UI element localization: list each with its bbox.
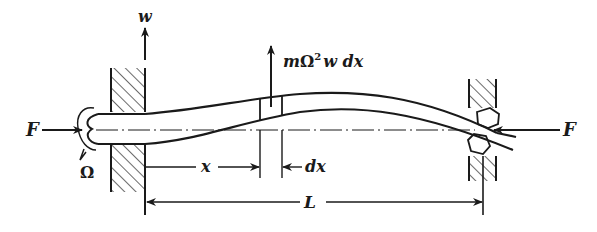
element-width-label: dx — [305, 157, 326, 176]
position-label: x — [200, 157, 211, 176]
rotation-label: Ω — [80, 163, 94, 182]
length-label: L — [303, 192, 316, 212]
right-bearing — [468, 79, 499, 215]
deflection-label: w — [138, 7, 153, 26]
shaft-diagram: mΩ2w dx w F Ω F x dx L — [0, 0, 597, 232]
axial-force-right-label: F — [562, 119, 577, 140]
shaft-upper-edge — [145, 93, 497, 133]
element-force-label: mΩ2w dx — [283, 51, 364, 71]
left-wall — [110, 68, 146, 215]
axial-force-left-label: F — [25, 119, 40, 140]
element-dx — [260, 96, 282, 178]
